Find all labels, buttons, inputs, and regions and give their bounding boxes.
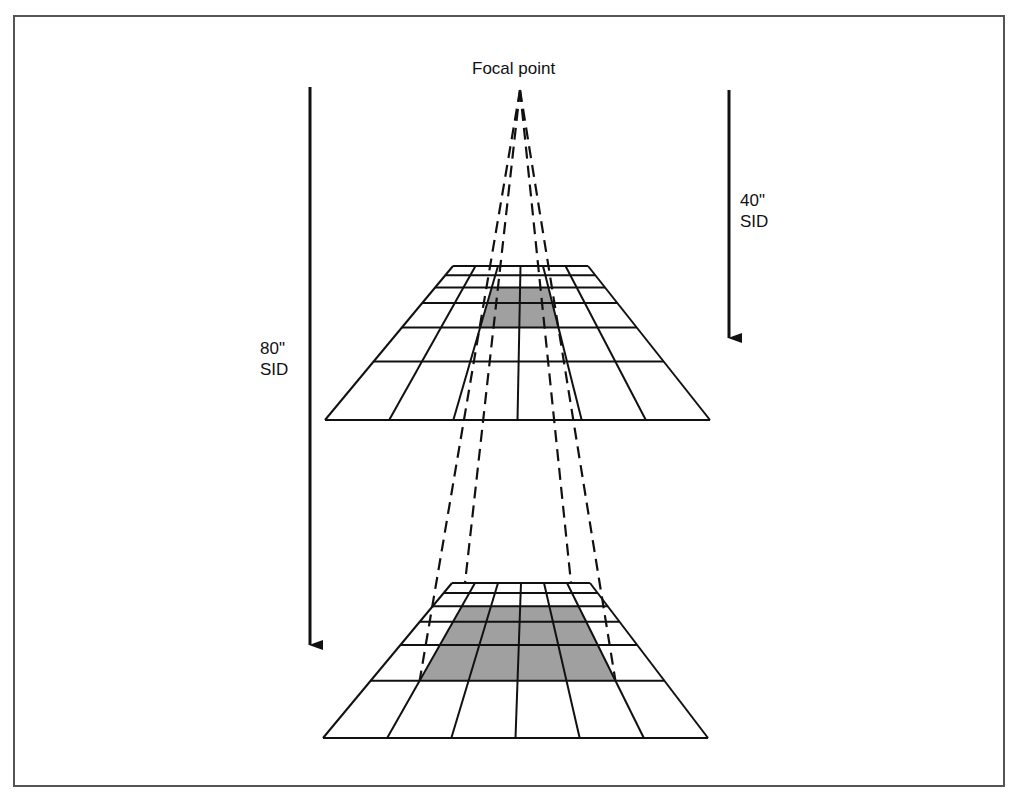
sid-diagram (0, 0, 1019, 799)
beam-line-0 (465, 90, 520, 583)
sid-80-unit: SID (260, 359, 288, 380)
grid-40-sid (325, 266, 710, 420)
sid-40-label: 40" SID (740, 190, 768, 232)
sid-80-label: 80" SID (260, 338, 288, 380)
sid-40-value: 40" (740, 190, 768, 211)
focal-point-label: Focal point (472, 58, 555, 79)
sid-40-unit: SID (740, 211, 768, 232)
beam-line-1 (520, 90, 571, 583)
grid-80-sid (323, 583, 708, 738)
beam-line-3 (520, 90, 615, 681)
grids (323, 266, 710, 738)
focal-point-text: Focal point (472, 58, 555, 79)
sid-80-value: 80" (260, 338, 288, 359)
